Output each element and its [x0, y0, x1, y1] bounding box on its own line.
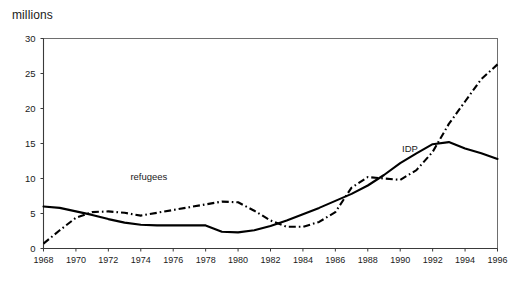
x-tick-label: 1992	[423, 255, 443, 265]
figure-container: millions 051015202530 196819701972197419…	[0, 0, 516, 285]
plot-frame	[44, 39, 498, 249]
x-tick-label: 1974	[131, 255, 151, 265]
x-tick-label: 1996	[487, 255, 507, 265]
x-tick-label: 1978	[196, 255, 216, 265]
x-tick-label: 1972	[98, 255, 118, 265]
y-tick-label: 30	[25, 33, 36, 44]
series-annotations: refugeesIDP	[130, 143, 417, 182]
x-tick-label: 1990	[390, 255, 410, 265]
line-chart-plot: 051015202530 196819701972197419761978198…	[0, 0, 516, 285]
x-tick-label: 1988	[358, 255, 378, 265]
x-tick-label: 1976	[163, 255, 183, 265]
series-line-idp	[44, 142, 498, 232]
y-tick-label: 0	[30, 243, 35, 254]
data-series-group	[44, 64, 498, 243]
x-axis-ticks: 1968197019721974197619781980198219841986…	[33, 249, 507, 265]
y-axis-ticks: 051015202530	[25, 33, 44, 254]
series-label-idp: IDP	[402, 143, 418, 154]
x-tick-label: 1980	[228, 255, 248, 265]
x-tick-label: 1968	[33, 255, 53, 265]
x-tick-label: 1970	[66, 255, 86, 265]
series-line-refugees	[44, 64, 498, 243]
x-tick-label: 1986	[325, 255, 345, 265]
y-tick-label: 5	[30, 208, 35, 219]
y-tick-label: 10	[25, 173, 36, 184]
series-label-refugees: refugees	[130, 171, 167, 182]
x-tick-label: 1982	[260, 255, 280, 265]
x-tick-label: 1984	[293, 255, 313, 265]
y-tick-label: 25	[25, 68, 36, 79]
x-tick-label: 1994	[455, 255, 475, 265]
y-tick-label: 15	[25, 138, 36, 149]
y-tick-label: 20	[25, 103, 36, 114]
